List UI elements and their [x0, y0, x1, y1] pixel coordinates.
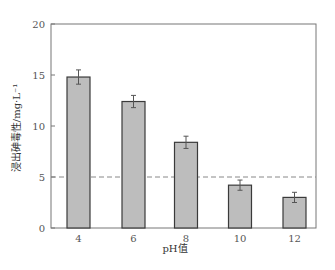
y-tick-label: 5 — [39, 172, 45, 183]
chart-container: 05101520 4681012 pH值 浸出砷毒性/mg·L⁻¹ — [0, 0, 335, 270]
y-tick-label: 15 — [32, 70, 45, 81]
bars — [67, 70, 306, 228]
x-tick-label: 12 — [288, 233, 301, 244]
bar-ph-10 — [229, 185, 252, 228]
y-axis-ticks: 05101520 — [32, 19, 55, 234]
y-tick-label: 0 — [39, 223, 45, 234]
bar-ph-6 — [122, 102, 145, 228]
x-tick-label: 4 — [75, 233, 81, 244]
y-axis-label: 浸出砷毒性/mg·L⁻¹ — [10, 84, 22, 172]
y-tick-label: 20 — [32, 19, 45, 30]
bar-ph-4 — [67, 77, 90, 228]
y-tick-label: 10 — [32, 121, 45, 132]
x-tick-label: 6 — [130, 233, 136, 244]
x-tick-label: 10 — [234, 233, 247, 244]
bar-chart: 05101520 4681012 pH值 浸出砷毒性/mg·L⁻¹ — [0, 0, 335, 270]
x-axis-label: pH值 — [162, 242, 187, 254]
x-axis-ticks: 4681012 — [75, 233, 301, 244]
bar-ph-8 — [175, 142, 198, 228]
